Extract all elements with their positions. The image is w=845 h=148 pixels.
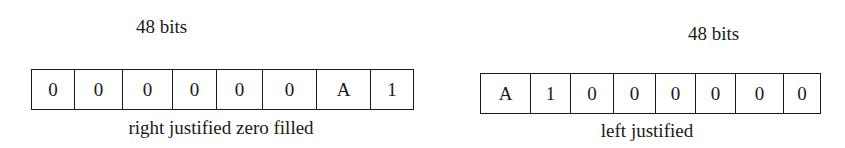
left-width-label: 48 bits [136,17,187,36]
left-cell-2: 0 [123,70,173,109]
left-cell-0: 0 [32,70,75,109]
right-cell-5: 0 [696,74,736,113]
right-register: A 1 0 0 0 0 0 0 [480,73,821,114]
right-cell-3: 0 [614,74,656,113]
left-cell-3: 0 [173,70,217,109]
right-cell-0: A [481,74,531,113]
right-width-label: 48 bits [688,24,739,43]
left-cell-4: 0 [217,70,263,109]
left-cell-7: 1 [371,70,413,109]
left-cell-6: A [317,70,371,109]
right-cell-1: 1 [531,74,571,113]
left-cell-1: 0 [75,70,123,109]
left-caption: right justified zero filled [128,118,313,137]
right-cell-6: 0 [736,74,784,113]
left-cell-5: 0 [263,70,317,109]
right-cell-2: 0 [571,74,614,113]
right-cell-4: 0 [656,74,696,113]
left-register: 0 0 0 0 0 0 A 1 [31,69,414,110]
right-cell-7: 0 [784,74,820,113]
right-caption: left justified [601,121,693,140]
